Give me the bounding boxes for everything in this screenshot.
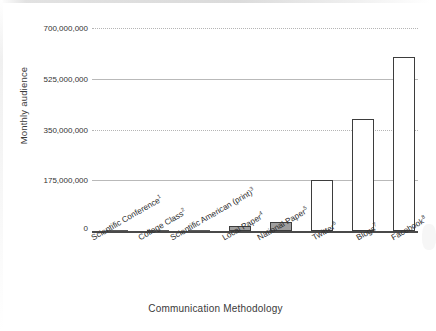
plot-area: 700,000,000 525,000,000 350,000,000 175,…	[92, 28, 418, 231]
y-tick-label-525m: 525,000,000	[0, 75, 88, 84]
x-axis-labels: Scientific Conference1 College Class2 Sc…	[92, 233, 432, 293]
gridline-700m	[92, 28, 418, 29]
bar-blogs	[352, 119, 374, 231]
gridline-525m	[92, 79, 418, 80]
x-axis-title: Communication Methodology	[0, 303, 431, 314]
y-tick-label-350m: 350,000,000	[0, 126, 88, 135]
bar-facebook	[393, 57, 415, 231]
y-tick-label-700m: 700,000,000	[0, 24, 88, 33]
y-tick-label-0: 0	[0, 224, 88, 233]
y-tick-label-175m: 175,000,000	[0, 176, 88, 185]
y-axis-title: Monthly audience	[18, 41, 29, 171]
